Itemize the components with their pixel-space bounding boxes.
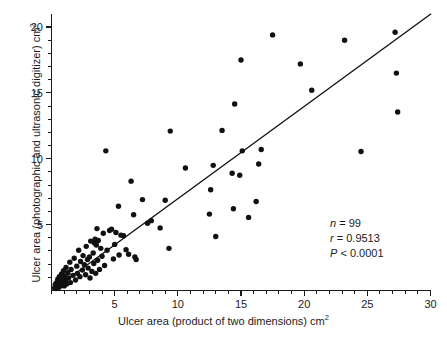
stat-sample-size: n = 99	[330, 216, 384, 231]
data-point	[111, 256, 116, 261]
data-point	[67, 259, 72, 264]
x-axis-title-superscript: 2	[325, 313, 329, 322]
data-point	[95, 257, 100, 262]
data-point	[123, 247, 128, 252]
data-point	[395, 109, 400, 114]
data-point	[168, 128, 173, 133]
y-axis-title-superscript: 2	[28, 23, 37, 27]
y-axis-title-wrapper: Ulcer area (photographic and ultrasonic …	[29, 8, 45, 298]
data-point	[166, 246, 171, 251]
data-point	[342, 37, 347, 42]
data-point	[246, 215, 251, 220]
data-point	[87, 275, 92, 280]
stat-p-value: P < 0.0001	[330, 246, 384, 261]
stat-p-value-text: < 0.0001	[337, 247, 383, 259]
stat-n-value: = 99	[336, 217, 361, 229]
statistics-annotation: n = 99 r = 0.9513 P < 0.0001	[330, 216, 384, 262]
data-point	[149, 218, 154, 223]
plot-canvas: 510152025305101520	[0, 0, 447, 342]
data-point	[113, 230, 118, 235]
data-point	[101, 230, 106, 235]
data-point	[259, 147, 264, 152]
data-point	[73, 277, 78, 282]
data-point	[394, 70, 399, 75]
data-point	[133, 257, 138, 262]
data-point	[256, 161, 261, 166]
data-point	[183, 165, 188, 170]
data-point	[140, 197, 145, 202]
data-point	[207, 211, 212, 216]
data-point	[211, 163, 216, 168]
data-point	[163, 198, 168, 203]
data-point	[72, 256, 77, 261]
x-axis-tick-label: 30	[424, 298, 436, 310]
data-point	[238, 57, 243, 62]
data-point	[392, 30, 397, 35]
data-point	[87, 254, 92, 259]
x-axis-tick-label: 10	[172, 298, 184, 310]
scatter-plot-figure: 510152025305101520 Ulcer area (product o…	[0, 0, 447, 342]
data-point	[229, 171, 234, 176]
data-point	[240, 148, 245, 153]
data-point	[131, 212, 136, 217]
data-point	[208, 187, 213, 192]
data-point	[93, 271, 98, 276]
data-point	[116, 203, 121, 208]
data-point	[126, 252, 131, 257]
stat-r-value: = 0.9513	[334, 232, 380, 244]
data-point	[80, 267, 85, 272]
data-point	[102, 263, 107, 268]
data-point	[77, 274, 82, 279]
y-axis-title: Ulcer area (photographic and ultrasonic …	[29, 8, 42, 298]
data-point	[104, 248, 109, 253]
data-point	[90, 250, 95, 255]
data-point	[109, 227, 114, 232]
data-point	[68, 280, 73, 285]
data-point	[99, 254, 104, 259]
data-point	[103, 148, 108, 153]
data-point	[80, 253, 85, 258]
data-point	[157, 225, 162, 230]
y-axis-title-text: Ulcer area (photographic and ultrasonic …	[30, 28, 42, 283]
data-point	[76, 248, 81, 253]
data-point	[213, 234, 218, 239]
data-point	[84, 244, 89, 249]
data-point	[358, 149, 363, 154]
data-point	[112, 242, 117, 247]
data-point	[116, 252, 121, 257]
data-point	[63, 265, 68, 270]
x-axis-tick-label: 5	[112, 298, 118, 310]
x-axis-tick-label: 25	[361, 298, 373, 310]
x-axis-title-text: Ulcer area (product of two dimensions) c…	[118, 315, 325, 327]
data-point	[68, 267, 73, 272]
data-point	[309, 88, 314, 93]
data-point	[94, 226, 99, 231]
tick-label-group: 510152025305101520	[31, 21, 437, 310]
data-point	[74, 263, 79, 268]
data-point	[128, 178, 133, 183]
x-axis-tick-label: 20	[298, 298, 310, 310]
data-point	[83, 272, 88, 277]
data-point	[253, 199, 258, 204]
data-point	[94, 242, 99, 247]
x-axis-title: Ulcer area (product of two dimensions) c…	[0, 314, 447, 327]
data-point	[270, 32, 275, 37]
data-point	[237, 173, 242, 178]
stat-correlation: r = 0.9513	[330, 231, 384, 246]
x-axis-tick-label: 15	[235, 298, 247, 310]
data-point	[298, 61, 303, 66]
data-point	[96, 238, 101, 243]
data-point	[219, 128, 224, 133]
data-point	[121, 233, 126, 238]
data-point	[231, 206, 236, 211]
data-point	[97, 267, 102, 272]
data-point	[98, 246, 103, 251]
data-point	[232, 101, 237, 106]
